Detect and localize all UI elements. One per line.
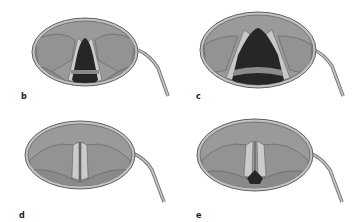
mirror-handle <box>314 50 343 96</box>
left-vocal-fold <box>72 142 79 180</box>
panel-label-d: d <box>19 211 25 220</box>
panel-e-laryngoscopy-view <box>197 119 342 202</box>
mirror-handle <box>138 50 168 96</box>
panel-label-c: c <box>196 92 201 101</box>
panel-label-e: e <box>196 211 201 220</box>
mirror-handle <box>132 153 164 202</box>
panel-d-laryngoscopy-view <box>25 121 164 202</box>
larynx-mirror-figure <box>0 0 361 222</box>
mirror-handle <box>310 153 342 202</box>
panel-label-b: b <box>21 92 27 101</box>
panel-b-laryngoscopy-view <box>32 18 168 96</box>
panel-c-laryngoscopy-view <box>200 12 343 96</box>
right-vocal-fold <box>81 142 88 180</box>
